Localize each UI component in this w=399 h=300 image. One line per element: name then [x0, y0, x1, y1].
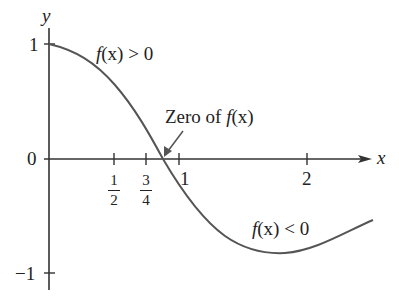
x-tick-label-2: 2 — [302, 169, 312, 188]
annotation-rest: (x) < 0 — [257, 218, 309, 239]
fraction-denominator: 2 — [110, 192, 118, 208]
fraction-numerator: 1 — [110, 172, 118, 188]
fraction-bar — [140, 190, 152, 191]
function-curve — [49, 44, 373, 253]
annotation-zero: Zero of f(x) — [165, 107, 254, 126]
zero-pointer-line — [168, 131, 183, 151]
fraction-numerator: 3 — [142, 172, 150, 188]
annotation-rest: (x) > 0 — [101, 43, 153, 64]
fraction-bar — [108, 190, 120, 191]
annotation-positive: f(x) > 0 — [96, 44, 153, 63]
fraction-denominator: 4 — [142, 192, 150, 208]
annotation-rest: (x) — [231, 106, 253, 127]
x-axis-label: x — [377, 148, 385, 167]
y-tick-label-1: 1 — [29, 35, 39, 54]
y-axis-label: y — [42, 6, 50, 25]
annotation-zero-text: Zero of — [165, 106, 226, 127]
x-tick-label-1: 1 — [180, 169, 190, 188]
y-tick-label-0: 0 — [27, 149, 37, 168]
annotation-negative: f(x) < 0 — [252, 219, 309, 238]
y-tick-label-minus-1: −1 — [15, 264, 35, 283]
x-tick-label-half: 1 2 — [107, 173, 121, 208]
chart-canvas — [0, 0, 399, 300]
x-tick-label-three-quarters: 3 4 — [139, 173, 153, 208]
